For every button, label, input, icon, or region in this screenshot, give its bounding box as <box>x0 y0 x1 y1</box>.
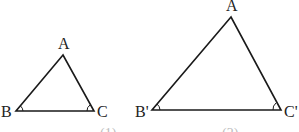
vertex-label-c-prime: C' <box>284 103 298 120</box>
vertex-label-b-prime: B' <box>135 103 149 120</box>
similar-triangles-diagram: A B C A B' C' (1) (2) <box>0 0 299 132</box>
angle-b-prime-arc <box>157 104 160 110</box>
caption-fragment-2: (2) <box>222 126 239 132</box>
vertex-label-a: A <box>58 35 70 52</box>
caption-fragments: (1) (2) <box>100 126 239 132</box>
angle-c-arc <box>87 105 90 111</box>
small-triangle: A B C <box>1 35 108 120</box>
small-triangle-edges <box>16 55 94 111</box>
vertex-label-c: C <box>97 103 108 120</box>
angle-c-prime-arc <box>273 103 276 110</box>
large-triangle: A B' C' <box>135 0 298 120</box>
vertex-label-a-prime: A <box>226 0 238 14</box>
large-triangle-edges <box>152 17 281 110</box>
caption-fragment-1: (1) <box>100 126 117 132</box>
vertex-label-b: B <box>1 103 12 120</box>
